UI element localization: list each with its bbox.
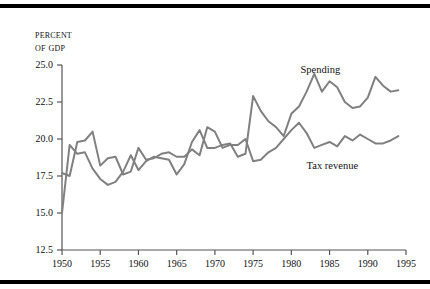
- figure-page: Percent of GDP 12.515.017.520.022.525.0 …: [0, 0, 430, 289]
- data-lines: [62, 74, 398, 213]
- y-tick-label: 20.0: [19, 133, 53, 144]
- chart-figure: Percent of GDP 12.515.017.520.022.525.0 …: [0, 12, 430, 276]
- top-rule: [0, 4, 430, 8]
- y-tick-label: 15.0: [19, 207, 53, 218]
- x-tick-label: 1975: [235, 258, 271, 269]
- y-tick-label: 17.5: [19, 170, 53, 181]
- plot-area: [0, 12, 430, 276]
- x-tick-label: 1985: [312, 258, 348, 269]
- y-tick-label: 25.0: [19, 59, 53, 70]
- bottom-rule: [0, 280, 430, 284]
- spending-label: Spending: [301, 64, 341, 75]
- y-tick-label: 22.5: [19, 96, 53, 107]
- x-tick-label: 1955: [82, 258, 118, 269]
- y-tick-label: 12.5: [19, 244, 53, 255]
- x-tick-label: 1980: [273, 258, 309, 269]
- x-tick-label: 1995: [388, 258, 424, 269]
- x-tick-label: 1965: [159, 258, 195, 269]
- x-tick-label: 1950: [44, 258, 80, 269]
- x-tick-label: 1960: [120, 258, 156, 269]
- tax-revenue-label: Tax revenue: [307, 160, 358, 171]
- x-tick-label: 1990: [350, 258, 386, 269]
- x-tick-label: 1970: [197, 258, 233, 269]
